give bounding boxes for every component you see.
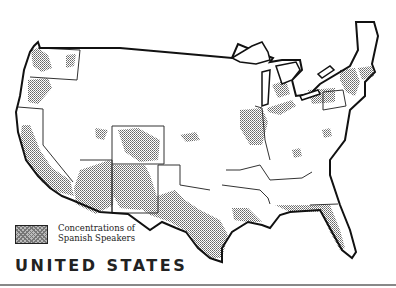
legend-label-line1: Concentrations of [58,223,135,233]
bottom-divider [0,284,396,286]
legend-label-line2: Spanish Speakers [58,233,135,243]
map-title: UNITEDSTATES [15,256,187,275]
map-title-word2: STATES [106,256,187,275]
map-title-word1: UNITED [15,256,97,275]
us-map [0,0,396,288]
legend-swatch-spanish-speakers [15,225,48,244]
legend: Concentrations of Spanish Speakers [15,223,135,244]
legend-label: Concentrations of Spanish Speakers [58,223,135,243]
